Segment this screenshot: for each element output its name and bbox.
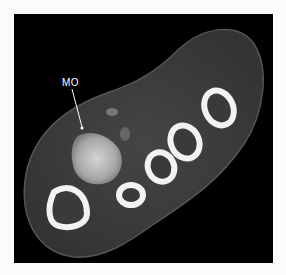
annotation-label-mo: MO <box>62 77 79 88</box>
ct-image-panel: MO <box>14 14 273 263</box>
ct-scan <box>14 14 273 263</box>
